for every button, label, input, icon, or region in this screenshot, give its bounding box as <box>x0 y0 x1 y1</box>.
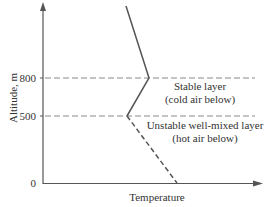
x-axis-arrow-icon <box>253 181 263 187</box>
tick-label-0: 0 <box>16 177 36 189</box>
x-axis-label: Temperature <box>122 191 192 203</box>
tick-label-800: 800 <box>16 72 36 84</box>
unstable-layer-note: (hot air below) <box>141 132 269 144</box>
stable-layer-note: (cold air below) <box>160 93 240 105</box>
unstable-layer-title: Unstable well-mixed layer <box>141 119 269 131</box>
temperature-profile-solid <box>126 6 149 116</box>
y-axis-arrow-icon <box>40 2 46 11</box>
tick-label-500: 500 <box>16 110 36 122</box>
stable-layer-title: Stable layer <box>160 80 240 92</box>
